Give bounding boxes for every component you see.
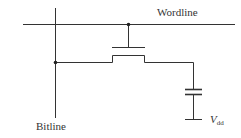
bitline-junction-dot (54, 61, 58, 65)
vdd-subscript: dd (217, 119, 224, 127)
wordline-junction-dot (127, 23, 131, 27)
circuit-schematic (0, 0, 241, 138)
transistor-channel (56, 56, 194, 90)
wordline-label: Wordline (157, 6, 198, 18)
vdd-main: V (210, 113, 217, 125)
bitline-label: Bitline (36, 120, 66, 132)
vdd-label: Vdd (210, 113, 224, 127)
dram-cell-diagram: Wordline Bitline Vdd (0, 0, 241, 138)
